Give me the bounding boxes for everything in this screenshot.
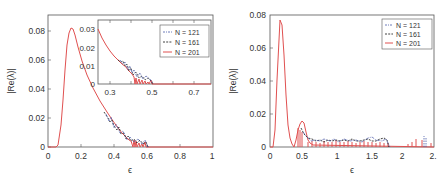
x-tick: 0.2 xyxy=(75,151,87,161)
inset-x-tick: 0.7 xyxy=(188,88,200,97)
legend-label-n201: N = 201 xyxy=(396,40,421,47)
y-tick: 0.06 xyxy=(28,55,45,65)
y-tick: 0.06 xyxy=(249,43,266,53)
right-x-axis: 0 0.5 1 1.5 2 2. xyxy=(268,151,437,161)
inset-x-tick: 0.5 xyxy=(146,88,158,97)
x-tick: 1.5 xyxy=(366,151,378,161)
legend-label-n121: N = 121 xyxy=(175,29,200,36)
y-tick: 0 xyxy=(261,142,266,152)
y-tick: 0.02 xyxy=(249,109,266,119)
right-chart: 0 0.02 0.04 0.06 0.08 |Re(λ)| 0 0.5 1 1.… xyxy=(228,10,437,175)
y-tick: 0.04 xyxy=(249,76,266,86)
right-y-label: |Re(λ)| xyxy=(228,68,238,93)
left-chart: 0 0.02 0.04 0.06 0.08 |Re(λ)| 0 0.2 0.4 … xyxy=(6,15,215,175)
y-tick: 0.04 xyxy=(28,84,45,94)
y-tick: 0 xyxy=(40,142,45,152)
right-legend: N = 121 N = 161 N = 201 xyxy=(382,19,432,49)
x-tick: 0.6 xyxy=(141,151,153,161)
right-y-axis: 0 0.02 0.04 0.06 0.08 xyxy=(249,10,273,152)
x-tick: 1 xyxy=(210,151,215,161)
legend-label-n121: N = 121 xyxy=(396,22,421,29)
figure: 0 0.02 0.04 0.06 0.08 |Re(λ)| 0 0.2 0.4 … xyxy=(0,0,448,180)
x-tick: 0.4 xyxy=(108,151,120,161)
x-tick: 0 xyxy=(46,151,51,161)
x-tick: 2 xyxy=(400,151,405,161)
y-tick: 0.02 xyxy=(28,113,45,123)
x-tick: 1 xyxy=(335,151,340,161)
left-x-label: ϵ xyxy=(128,165,132,175)
inset-x-tick: 0.3 xyxy=(104,88,116,97)
legend-label-n161: N = 161 xyxy=(396,31,421,38)
left-y-label: |Re(λ)| xyxy=(6,68,16,93)
x-tick: 2. xyxy=(429,151,436,161)
y-tick: 0.08 xyxy=(249,10,266,20)
inset-y-tick: 0.02 xyxy=(79,44,95,53)
inset-y-tick: 0.01 xyxy=(79,62,95,71)
x-tick: 0 xyxy=(268,151,273,161)
x-tick: 0.8 xyxy=(174,151,186,161)
left-legend: N = 121 N = 161 N = 201 xyxy=(160,25,209,57)
right-x-label: ϵ xyxy=(350,165,354,175)
x-tick: 0.5 xyxy=(296,151,308,161)
legend-label-n161: N = 161 xyxy=(175,39,200,46)
inset-y-tick: 0 xyxy=(91,80,96,89)
y-tick: 0.08 xyxy=(28,26,45,36)
legend-label-n201: N = 201 xyxy=(175,49,200,56)
inset-y-tick: 0.03 xyxy=(79,25,95,34)
